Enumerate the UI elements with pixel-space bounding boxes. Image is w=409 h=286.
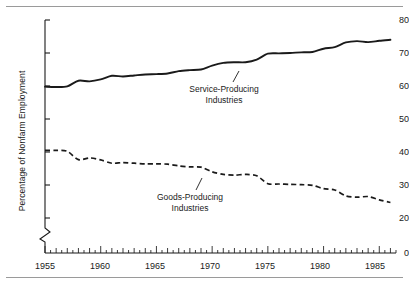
service-leader-line <box>233 71 239 82</box>
goods-leader-line <box>196 178 202 190</box>
y-tick-marks <box>45 20 50 218</box>
x-minor-tick-marks <box>45 246 396 253</box>
figure-container: Percentage of Nonfarm Employment 80 70 6… <box>0 0 409 286</box>
plot-area <box>0 0 409 286</box>
series-line-goods-producing <box>45 150 390 202</box>
series-line-service-producing <box>45 40 390 87</box>
axes <box>40 20 396 253</box>
